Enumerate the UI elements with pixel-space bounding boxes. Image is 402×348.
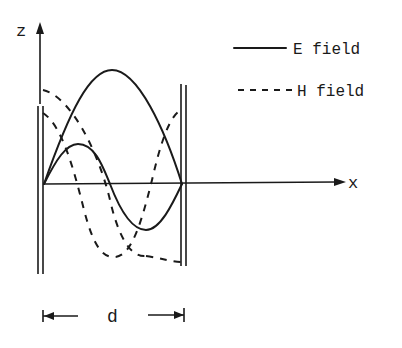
- legend-e-field: E field: [293, 41, 360, 59]
- e-field-mode-2: [44, 144, 182, 230]
- legend: E field H field: [234, 41, 364, 101]
- z-arrow-icon: [36, 22, 44, 34]
- h-field-mode-1-cont: [146, 256, 182, 262]
- h-field-mode-1: [43, 90, 146, 256]
- x-axis: [44, 178, 346, 186]
- z-axis-label: z: [16, 22, 26, 41]
- field-diagram: z x E field H field d: [0, 0, 402, 348]
- dim-right-arrow-icon: [174, 311, 184, 319]
- left-plate: [38, 106, 43, 274]
- x-arrow-icon: [334, 178, 346, 186]
- dimension-label: d: [107, 307, 118, 327]
- e-field-mode-1: [44, 70, 182, 184]
- z-axis: [36, 22, 44, 104]
- right-plate: [181, 84, 186, 266]
- legend-h-field: H field: [297, 83, 364, 101]
- dim-left-arrow-icon: [44, 312, 54, 320]
- x-axis-label: x: [348, 174, 358, 193]
